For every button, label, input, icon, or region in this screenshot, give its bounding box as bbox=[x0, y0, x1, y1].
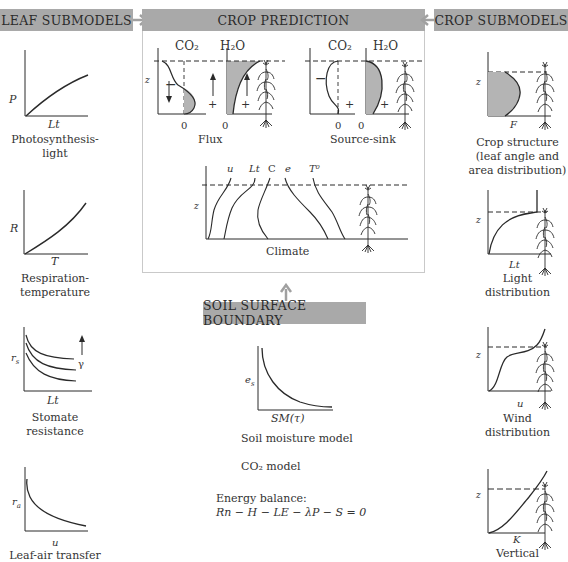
vertical-caption: Vertical bbox=[470, 547, 565, 561]
crop-submodels-header: CROP SUBMODELS bbox=[434, 9, 568, 31]
z-axis-label: z bbox=[476, 215, 481, 225]
crop-prediction-title: CROP PREDICTION bbox=[217, 13, 349, 28]
crop-prediction-header: CROP PREDICTION bbox=[142, 9, 425, 31]
minus-sign: − bbox=[315, 70, 327, 86]
k-axis-label: K bbox=[513, 534, 520, 545]
corn-plant-icon bbox=[256, 60, 280, 132]
ra-axis-label: ra bbox=[12, 496, 21, 510]
e-curve-label: e bbox=[285, 163, 291, 174]
z-axis-label: z bbox=[476, 350, 481, 360]
corn-plant-icon bbox=[535, 482, 559, 554]
source-sink-caption: Source-sink bbox=[330, 133, 396, 146]
leaf-submodels-header: LEAF SUBMODELS bbox=[0, 9, 133, 31]
caption-line: light bbox=[10, 147, 100, 161]
arrow-up-icon bbox=[79, 335, 85, 342]
crop-submodels-title: CROP SUBMODELS bbox=[434, 13, 567, 28]
h2o-label: H₂O bbox=[373, 39, 398, 53]
corn-plant-icon bbox=[535, 208, 559, 280]
stomate-resistance-caption: Stomate resistance bbox=[5, 411, 105, 439]
h2o-label: H₂O bbox=[220, 39, 245, 53]
zero-label: 0 bbox=[181, 120, 187, 131]
stomate-resistance-chart bbox=[10, 325, 100, 395]
leaf-submodels-title: LEAF SUBMODELS bbox=[1, 13, 132, 28]
sm-tau-axis-label: SM(τ) bbox=[271, 412, 304, 425]
lt-axis-label: Lt bbox=[47, 394, 59, 407]
zero-label: 0 bbox=[358, 120, 364, 131]
t0-curve-label: T⁰ bbox=[309, 163, 320, 174]
f-axis-label: F bbox=[510, 119, 517, 130]
c-curve-label: C bbox=[268, 163, 276, 174]
u-axis-label: u bbox=[52, 537, 58, 548]
u-axis-label: u bbox=[517, 398, 523, 409]
corn-plant-icon bbox=[535, 342, 559, 414]
co2-label: CO₂ bbox=[328, 39, 352, 53]
zero-label: 0 bbox=[335, 120, 341, 131]
minus-sign: − bbox=[165, 76, 177, 92]
soil-moisture-chart bbox=[250, 344, 335, 412]
corn-plant-icon bbox=[395, 62, 419, 134]
leaf-air-transfer-chart bbox=[10, 465, 90, 535]
t-axis-label: T bbox=[51, 255, 58, 268]
z-axis-label: z bbox=[476, 490, 481, 500]
soil-moisture-caption: Soil moisture model bbox=[241, 432, 353, 445]
lt-curve-label: Lt bbox=[249, 163, 260, 174]
soil-surface-boundary-title: SOIL SURFACE BOUNDARY bbox=[203, 298, 366, 328]
co2-label: CO₂ bbox=[175, 39, 199, 53]
arrow-left-icon bbox=[419, 11, 435, 29]
caption-line: distribution bbox=[470, 426, 565, 440]
caption-line: (leaf angle and bbox=[465, 150, 568, 164]
caption-line: area distribution) bbox=[465, 164, 568, 178]
caption-line: Respiration- bbox=[5, 272, 105, 286]
z-axis-label: z bbox=[145, 75, 150, 85]
flux-caption: Flux bbox=[198, 133, 222, 146]
es-axis-label: es bbox=[245, 374, 255, 388]
energy-balance-label: Energy balance: bbox=[216, 492, 307, 505]
climate-caption: Climate bbox=[266, 245, 309, 258]
rs-axis-label: rs bbox=[11, 352, 19, 366]
corn-plant-icon bbox=[358, 185, 382, 257]
lt-axis-label: Lt bbox=[48, 118, 60, 131]
z-axis-label: z bbox=[194, 201, 199, 211]
caption-line: Wind bbox=[470, 412, 565, 426]
caption-line: Stomate bbox=[5, 411, 105, 425]
lt-axis-label: Lt bbox=[509, 259, 520, 270]
caption-line: Light bbox=[470, 272, 565, 286]
leaf-air-transfer-caption: Leaf-air transfer bbox=[5, 549, 105, 562]
plus-sign: + bbox=[345, 98, 354, 111]
photosynthesis-light-caption: Photosynthesis- light bbox=[10, 133, 100, 161]
light-distribution-caption: Light distribution bbox=[470, 272, 565, 300]
caption-line: Photosynthesis- bbox=[10, 133, 100, 147]
z-axis-label: z bbox=[476, 77, 481, 87]
r-axis-label: R bbox=[10, 222, 18, 235]
respiration-temperature-chart bbox=[10, 188, 90, 268]
caption-line: resistance bbox=[5, 425, 105, 439]
co2-model-label: CO₂ model bbox=[241, 460, 300, 473]
p-axis-label: P bbox=[9, 93, 16, 106]
crop-structure-caption: Crop structure (leaf angle and area dist… bbox=[465, 136, 568, 178]
plus-sign: + bbox=[208, 98, 217, 111]
corn-plant-icon bbox=[535, 62, 559, 134]
plus-sign: + bbox=[380, 98, 389, 111]
caption-line: distribution bbox=[470, 286, 565, 300]
respiration-temperature-caption: Respiration- temperature bbox=[5, 272, 105, 300]
caption-line: temperature bbox=[5, 286, 105, 300]
energy-balance-equation: Rn − H − LE − λP − S = 0 bbox=[216, 506, 366, 519]
plus-sign: + bbox=[241, 98, 250, 111]
wind-distribution-caption: Wind distribution bbox=[470, 412, 565, 440]
zero-label: 0 bbox=[222, 120, 228, 131]
soil-surface-boundary-header: SOIL SURFACE BOUNDARY bbox=[203, 302, 366, 324]
gamma-label: γ bbox=[78, 358, 84, 369]
caption-line: Crop structure bbox=[465, 136, 568, 150]
u-curve-label: u bbox=[227, 163, 233, 174]
